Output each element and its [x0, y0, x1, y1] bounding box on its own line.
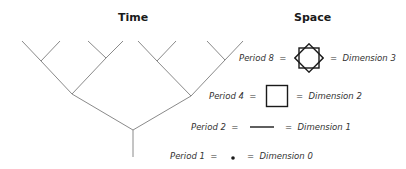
dimension-3-label: = Dimension 3 [330, 53, 396, 63]
tesseract-octagram-icon [294, 43, 324, 73]
dimension-0-label: = Dimension 0 [247, 151, 313, 161]
period-2-label: Period 2 = [191, 122, 238, 132]
period-4-label: Period 4 = [209, 91, 256, 101]
square-icon [265, 84, 289, 108]
period-8-label: Period 8 = [239, 53, 286, 63]
dimension-1-label: = Dimension 1 [285, 122, 351, 132]
binary-tree-diagram [0, 0, 406, 169]
dimension-2-label: = Dimension 2 [296, 91, 362, 101]
period-1-label: Period 1 = [170, 151, 217, 161]
point-icon [229, 154, 237, 162]
line-segment-icon [249, 124, 275, 130]
